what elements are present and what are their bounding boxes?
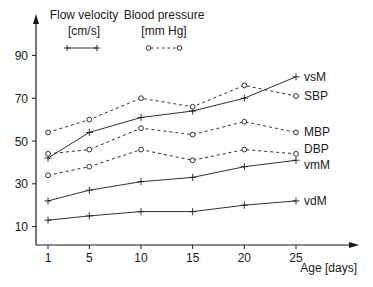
series-line (48, 201, 296, 220)
y-tick-label: 10 (15, 220, 29, 234)
series-group: vsMSBPMBPDBPvmMvdM (45, 70, 331, 224)
x-tick-label: 20 (238, 251, 252, 265)
circle-marker-icon (190, 158, 195, 163)
legend-flow-sample (64, 45, 100, 51)
circle-marker-icon (139, 96, 144, 101)
x-tick-label: 5 (86, 251, 93, 265)
circle-marker-icon (242, 147, 247, 152)
series-line (48, 150, 296, 176)
circle-marker-icon (46, 151, 51, 156)
chart-container: 1030507090 1510152025 Age [days] Flow ve… (0, 0, 373, 287)
circle-marker-icon (294, 130, 299, 135)
series-label-vdm: vdM (304, 194, 327, 208)
series-vdm: vdM (45, 194, 327, 224)
circle-marker-icon (87, 164, 92, 169)
x-axis-title: Age [days] (300, 261, 357, 275)
series-label-dbp: DBP (304, 142, 329, 156)
x-tick-label: 10 (134, 251, 148, 265)
series-label-mbp: MBP (304, 125, 330, 139)
y-tick-label: 50 (15, 135, 29, 149)
series-vmm: vmM (45, 157, 331, 205)
series-label-sbp: SBP (304, 89, 328, 103)
legend-pressure-sample (146, 46, 182, 51)
circle-marker-icon (139, 147, 144, 152)
x-tick-label: 15 (186, 251, 200, 265)
circle-marker-icon (139, 126, 144, 131)
circle-marker-icon (46, 173, 51, 178)
circle-marker-icon (146, 46, 151, 51)
series-line (48, 160, 296, 201)
y-axis-arrow-icon (33, 14, 39, 24)
circle-marker-icon (87, 147, 92, 152)
legend-pressure-unit: [mm Hg] (141, 24, 186, 38)
x-ticks: 1510152025 (45, 245, 303, 265)
y-tick-label: 90 (15, 49, 29, 63)
y-ticks: 1030507090 (15, 49, 36, 234)
y-tick-label: 30 (15, 177, 29, 191)
y-tick-label: 70 (15, 92, 29, 106)
legend-flow-title: Flow velocity (50, 8, 119, 22)
circle-marker-icon (242, 83, 247, 88)
x-axis-arrow-icon (349, 242, 359, 248)
series-label-vsm: vsM (304, 70, 326, 84)
legend: Flow velocity [cm/s] Blood pressure [mm … (50, 8, 205, 51)
circle-marker-icon (294, 94, 299, 99)
line-chart: 1030507090 1510152025 Age [days] Flow ve… (0, 0, 373, 287)
circle-marker-icon (177, 46, 182, 51)
circle-marker-icon (190, 132, 195, 137)
circle-marker-icon (294, 151, 299, 156)
legend-pressure-title: Blood pressure (124, 8, 205, 22)
series-line (48, 122, 296, 154)
circle-marker-icon (46, 130, 51, 135)
circle-marker-icon (190, 104, 195, 109)
series-vsm: vsM (45, 70, 327, 162)
series-sbp: SBP (46, 83, 328, 135)
series-line (48, 77, 296, 158)
circle-marker-icon (87, 117, 92, 122)
x-tick-label: 1 (45, 251, 52, 265)
legend-flow-unit: [cm/s] (68, 24, 100, 38)
series-label-vmm: vmM (304, 158, 330, 172)
circle-marker-icon (242, 119, 247, 124)
series-mbp: MBP (46, 119, 330, 156)
